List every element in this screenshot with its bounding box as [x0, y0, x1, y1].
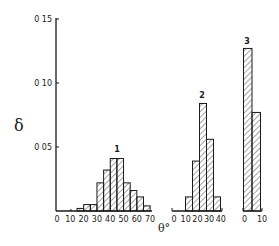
histogram-3: 0103 [242, 37, 267, 224]
histogram-bar [110, 159, 117, 211]
x-tick-label: 0 [242, 215, 247, 224]
x-tick-label: 50 [118, 215, 128, 224]
y-tick-label: 0 10 [34, 79, 52, 88]
histogram-bar [186, 197, 193, 211]
histogram-bar [200, 103, 207, 211]
x-tick-label: 40 [216, 215, 226, 224]
y-tick-label: 0 15 [34, 15, 52, 24]
x-axis-label: θ° [158, 222, 170, 235]
x-tick-label: 30 [204, 215, 214, 224]
x-tick-label: 40 [105, 215, 115, 224]
histogram-bar [137, 197, 144, 211]
histogram-bar [130, 191, 137, 211]
y-axis: 0 050 100 15 [34, 15, 59, 211]
histogram-bar [214, 197, 221, 211]
x-tick-label: 30 [92, 215, 102, 224]
x-tick-label: 10 [65, 215, 75, 224]
x-tick-label: 0 [54, 215, 59, 224]
x-tick-label: 20 [192, 215, 202, 224]
histogram-bar [124, 183, 131, 211]
histogram-bar [244, 48, 253, 211]
histogram-bar [193, 161, 200, 211]
x-tick-label: 10 [257, 215, 267, 224]
x-tick-label: 0 [171, 215, 176, 224]
histogram-bar [90, 205, 97, 211]
x-tick-label: 60 [132, 215, 142, 224]
histogram-label: 3 [244, 37, 250, 46]
x-tick-label: 20 [79, 215, 89, 224]
y-tick-label: 0 05 [34, 143, 52, 152]
histogram-chart: 0 050 100 15 010203040506070101020304020… [0, 0, 279, 246]
histogram-bar [252, 112, 261, 211]
histogram-bar [207, 139, 214, 211]
histogram-label: 1 [114, 145, 120, 154]
histogram-panels: 010203040506070101020304020103 [54, 37, 267, 224]
histogram-bar [144, 206, 151, 211]
y-axis-label: δ [14, 116, 24, 135]
histogram-bar [77, 208, 84, 211]
x-tick-label: 70 [145, 215, 155, 224]
histogram-2: 0102030402 [171, 91, 225, 224]
histogram-bar [117, 159, 124, 211]
histogram-bar [104, 170, 111, 211]
histogram-bar [97, 183, 104, 211]
histogram-1: 0102030405060701 [54, 145, 155, 224]
x-tick-label: 10 [181, 215, 191, 224]
histogram-bar [84, 205, 91, 211]
histogram-label: 2 [199, 91, 205, 100]
